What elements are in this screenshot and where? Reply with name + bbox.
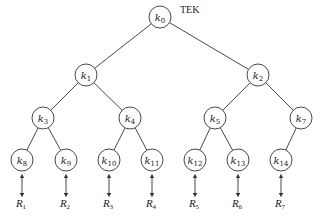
receiver-R2: R2	[59, 176, 71, 211]
receiver-R1: R1	[15, 176, 27, 211]
receiver-label: R1	[15, 197, 27, 211]
edge-k2-k5	[223, 83, 250, 110]
node-k7: k7	[290, 107, 312, 129]
node-k11: k11	[141, 149, 163, 171]
receiver-R4: R4	[145, 176, 157, 211]
receiver-label: R4	[145, 197, 157, 211]
receiver-R6: R6	[231, 176, 243, 211]
receiver-R7: R7	[274, 176, 286, 211]
edge-k3-k9	[48, 128, 60, 151]
node-k9: k9	[55, 149, 77, 171]
edge-k5-k12	[200, 128, 211, 150]
node-k4: k4	[119, 107, 141, 129]
edge-k1-k3	[51, 83, 78, 110]
edge-k2-k7	[266, 83, 293, 110]
node-k13: k13	[227, 149, 249, 171]
node-k1: k1	[75, 64, 97, 86]
node-k12: k12	[184, 149, 206, 171]
node-k10: k10	[98, 149, 120, 171]
node-k14: k14	[270, 149, 292, 171]
edge-k5-k13	[220, 128, 232, 151]
receiver-label: R2	[59, 197, 71, 211]
edge-k3-k8	[27, 128, 38, 150]
receiver-R3: R3	[102, 176, 114, 211]
edge-k4-k10	[114, 128, 125, 150]
edge-k1-k4	[94, 83, 122, 111]
edge-k4-k11	[135, 128, 147, 151]
node-k3: k3	[32, 107, 54, 129]
tree-title: TEK	[180, 4, 200, 15]
receivers: R1R2R3R4R5R6R7	[15, 176, 286, 211]
receiver-label: R7	[274, 197, 286, 211]
tree-nodes: k0k1k2k3k4k5k7k8k9k10k11k12k13k14	[11, 6, 312, 171]
receiver-label: R5	[188, 197, 200, 211]
edge-k0-k1	[95, 24, 152, 68]
receiver-label: R6	[231, 197, 243, 211]
node-k8: k8	[11, 149, 33, 171]
edge-k0-k2	[169, 23, 248, 70]
node-k2: k2	[247, 64, 269, 86]
node-k5: k5	[204, 107, 226, 129]
receiver-R5: R5	[188, 176, 200, 211]
key-tree-diagram: k0k1k2k3k4k5k7k8k9k10k11k12k13k14 R1R2R3…	[0, 0, 324, 220]
node-k0: k0	[149, 6, 171, 28]
tree-edges	[27, 23, 296, 151]
receiver-label: R3	[102, 197, 114, 211]
edge-k7-k14	[286, 128, 297, 150]
